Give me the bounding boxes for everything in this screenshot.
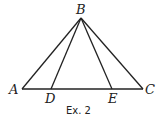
- label-c: C: [145, 82, 155, 97]
- triangle-diagram: B A C D E Ex. 2: [0, 0, 163, 119]
- segment-bd: [51, 18, 81, 89]
- label-b: B: [75, 2, 86, 17]
- segment-ab: [22, 18, 81, 89]
- segment-bc: [81, 18, 143, 89]
- label-e: E: [107, 91, 118, 106]
- caption: Ex. 2: [66, 105, 91, 116]
- segments: [22, 18, 143, 89]
- label-d: D: [44, 91, 56, 106]
- segment-be: [81, 18, 112, 89]
- label-a: A: [8, 82, 18, 97]
